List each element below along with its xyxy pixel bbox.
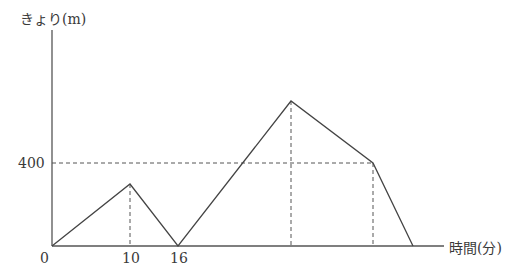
distance-time-graph bbox=[0, 0, 524, 276]
x-tick-0: 0 bbox=[40, 250, 49, 266]
y-tick-400: 400 bbox=[18, 155, 45, 171]
x-axis-label: 時間(分) bbox=[449, 237, 502, 257]
y-axis-label: きょり(m) bbox=[20, 8, 86, 28]
distance-line bbox=[52, 101, 413, 246]
x-tick-10: 10 bbox=[122, 250, 140, 266]
x-tick-16: 16 bbox=[170, 250, 188, 266]
